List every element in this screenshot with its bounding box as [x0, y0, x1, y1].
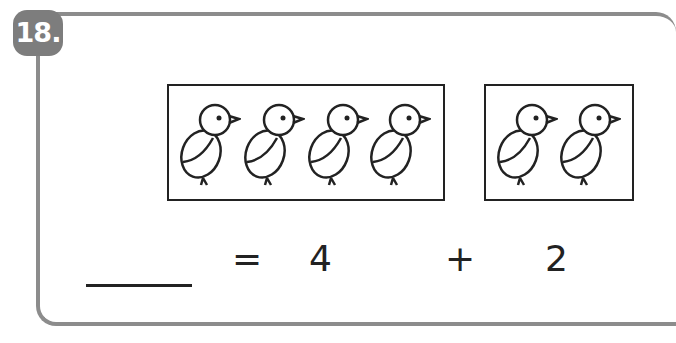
problem-number-badge: 18.	[13, 10, 63, 56]
chick-icon	[557, 98, 621, 188]
chick-icon	[241, 98, 305, 188]
chick-icon	[494, 98, 558, 188]
chick-icon	[305, 98, 369, 188]
chick-group-2	[484, 84, 634, 201]
chick-icon	[177, 98, 241, 188]
plus-sign: +	[445, 238, 475, 279]
addend-2: 2	[545, 238, 568, 279]
equals-sign: =	[232, 238, 262, 279]
chick-icon	[367, 98, 431, 188]
addend-1: 4	[309, 238, 332, 279]
answer-blank[interactable]	[86, 284, 192, 287]
chick-group-1	[167, 84, 445, 201]
